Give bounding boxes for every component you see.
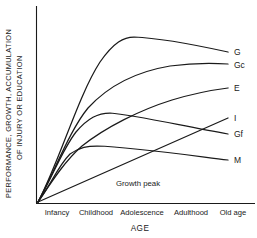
curve-g (38, 37, 228, 202)
series-label-i: I (234, 113, 236, 123)
y-axis-title-line2: OF INJURY OR EDUCATION (15, 55, 24, 160)
curve-i (38, 118, 228, 202)
chart-canvas: G Gc E I Gf M Growth peak Infancy Childh… (0, 0, 257, 238)
y-axis-title-line1: PERFORMANCE, GROWTH, ACCUMULATION (4, 29, 13, 198)
x-tick-adolescence: Adolescence (120, 208, 163, 217)
series-label-gc: Gc (234, 60, 246, 70)
x-tick-infancy: Infancy (45, 208, 70, 217)
series-label-e: E (234, 83, 240, 93)
x-tick-childhood: Childhood (79, 208, 113, 217)
curve-m (38, 146, 228, 202)
x-tick-old-age: Old age (220, 208, 247, 217)
series-label-g: G (234, 47, 241, 57)
series-label-gf: Gf (234, 129, 244, 139)
growth-peak-annotation: Growth peak (116, 179, 160, 188)
chart-page: G Gc E I Gf M Growth peak Infancy Childh… (0, 0, 257, 238)
x-tick-adulthood: Adulthood (174, 208, 208, 217)
series-label-m: M (234, 155, 241, 165)
x-axis-title: AGE (131, 224, 150, 233)
